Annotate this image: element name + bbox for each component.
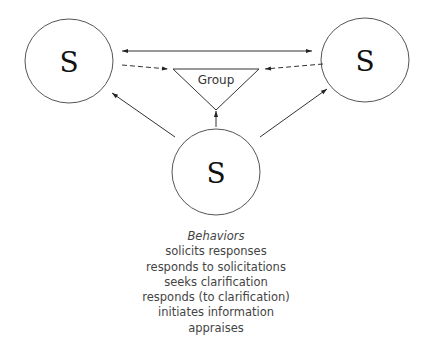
edge-left-to-group-dashed-arrow [122,65,168,69]
behavior-item: responds (to clarification) [0,290,426,305]
behaviors-title: Behaviors [0,229,426,244]
node-left-label: S [59,46,78,79]
node-left: S [25,19,113,103]
group-label: Group [198,73,235,87]
behavior-item: responds to solicitations [0,260,426,275]
node-right-label: S [355,45,374,78]
edge-right-to-group-dashed-arrow [265,64,323,69]
behavior-item: initiates information [0,305,426,320]
node-bottom-label: S [206,157,225,190]
behavior-item: seeks clarification [0,275,426,290]
group-node: Group [173,69,259,110]
behavior-item: appraises [0,321,426,336]
node-right: S [321,18,409,102]
edge-bottom-to-right-arrow [260,89,327,137]
behavior-item: solicits responses [0,244,426,259]
node-bottom: S [172,129,260,215]
behaviors-list: Behaviors solicits responses responds to… [0,229,426,336]
edge-bottom-to-left-arrow [112,93,175,137]
